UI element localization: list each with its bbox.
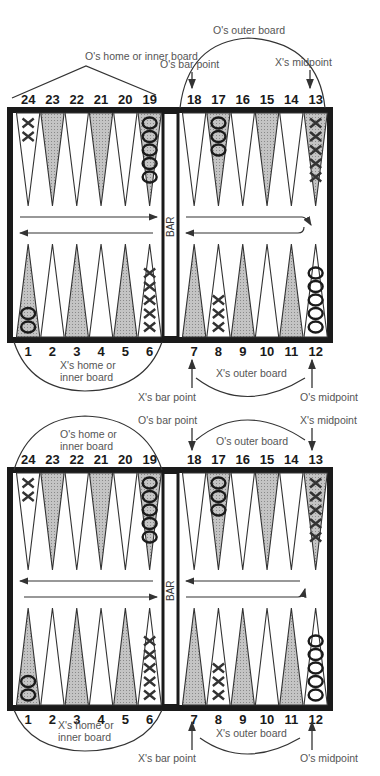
point-number: 21 (94, 92, 108, 107)
o-outer-arc (196, 420, 305, 440)
point-number: 13 (308, 452, 322, 467)
point-number: 18 (187, 452, 201, 467)
point-number: 15 (260, 452, 274, 467)
point-number: 18 (187, 92, 201, 107)
point-number: 20 (118, 92, 132, 107)
point-number: 12 (308, 344, 322, 359)
o-outer-arc (180, 38, 325, 108)
point-number: 23 (45, 452, 59, 467)
point-number: 8 (215, 712, 222, 727)
point-number: 14 (284, 452, 299, 467)
point-number: 1 (25, 712, 32, 727)
point-number: 22 (70, 92, 84, 107)
x-outer-arc (196, 378, 305, 397)
x-home-arc (14, 342, 162, 391)
point-number: 9 (239, 712, 246, 727)
point-number: 24 (21, 92, 36, 107)
point-number: 9 (239, 344, 246, 359)
point-number: 3 (73, 344, 80, 359)
point-number: 22 (70, 452, 84, 467)
point-number: 17 (211, 452, 225, 467)
point-number: 24 (21, 452, 36, 467)
point-number: 15 (260, 92, 274, 107)
backgammon-diagrams: BAR2412322232142051961871781691510141113… (0, 0, 380, 776)
point-number: 21 (94, 452, 108, 467)
point-number: 4 (97, 712, 105, 727)
point-number: 16 (236, 452, 250, 467)
point-number: 3 (73, 712, 80, 727)
point-number: 8 (215, 344, 222, 359)
point-number: 6 (146, 712, 153, 727)
point-number: 23 (45, 92, 59, 107)
point-number: 5 (122, 344, 129, 359)
board-bottom-diagram: BAR2412322232142051961871781691510141113… (10, 416, 330, 754)
point-number: 16 (236, 92, 250, 107)
point-number: 11 (284, 712, 298, 727)
point-number: 6 (146, 344, 153, 359)
x-outer-arc (200, 738, 300, 754)
point-number: 2 (49, 344, 56, 359)
point-number: 12 (308, 712, 322, 727)
point-number: 13 (308, 92, 322, 107)
point-number: 10 (260, 344, 274, 359)
point-number: 10 (260, 712, 274, 727)
bar-label: BAR (165, 216, 176, 237)
point-number: 2 (49, 712, 56, 727)
point-number: 17 (211, 92, 225, 107)
point-number: 14 (284, 92, 299, 107)
point-number: 20 (118, 452, 132, 467)
point-number: 1 (25, 344, 32, 359)
o-home-arc (14, 416, 162, 470)
point-number: 11 (284, 344, 298, 359)
point-number: 5 (122, 712, 129, 727)
board-top-diagram: BAR2412322232142051961871781691510141113… (10, 38, 330, 397)
bar-label: BAR (165, 580, 176, 601)
point-number: 4 (97, 344, 105, 359)
x-home-arc (14, 710, 162, 751)
point-number: 7 (191, 344, 198, 359)
